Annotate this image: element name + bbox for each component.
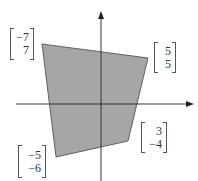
vector-entry: −6	[28, 162, 41, 175]
shaded-quadrilateral	[42, 44, 148, 157]
vertex-label-bottom-right: 3 −4	[141, 122, 167, 153]
y-axis-arrow-icon	[98, 11, 104, 19]
vertex-label-top-left: −7 7	[10, 28, 34, 60]
vector-entry: −5	[28, 149, 41, 162]
vector-entry: 5	[165, 58, 171, 71]
x-axis-arrow-icon	[186, 101, 194, 107]
vector-entry: 3	[156, 125, 162, 138]
vector-entry: 7	[23, 44, 29, 57]
vector-entry: 5	[165, 45, 171, 58]
vertex-label-bottom-left: −5 −6	[18, 145, 46, 178]
vertex-label-top-right: 5 5	[154, 42, 176, 73]
vector-entry: −4	[149, 138, 162, 151]
